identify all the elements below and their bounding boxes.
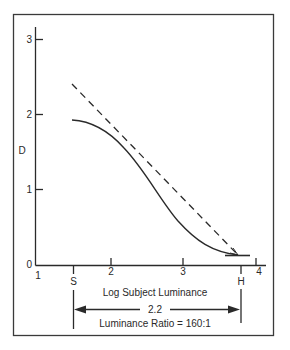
y-ticks xyxy=(36,40,44,190)
s-marker-label: S xyxy=(70,276,77,287)
left-arrowhead-icon xyxy=(74,306,86,314)
svg-text:2: 2 xyxy=(26,109,32,120)
svg-text:1: 1 xyxy=(26,184,32,195)
characteristic-curve xyxy=(72,120,238,255)
svg-text:0: 0 xyxy=(26,259,32,270)
range-label: 2.2 xyxy=(148,304,162,315)
right-arrowhead-icon xyxy=(228,306,240,314)
luminance-ratio-label: Luminance Ratio = 160:1 xyxy=(99,318,211,329)
x-axis-label: Log Subject Luminance xyxy=(103,287,208,298)
svg-text:4: 4 xyxy=(256,266,262,277)
x-ticks xyxy=(111,258,256,266)
characteristic-curve-figure: 3 2 1 0 1 2 3 4 D Log Subject Luminance … xyxy=(0,0,290,350)
svg-text:3: 3 xyxy=(180,266,186,277)
h-marker-label: H xyxy=(237,276,244,287)
dashed-reference-line xyxy=(72,84,237,254)
svg-text:2: 2 xyxy=(108,266,114,277)
y-axis-label: D xyxy=(18,145,25,156)
y-tick-labels: 3 2 1 0 xyxy=(26,34,32,270)
svg-text:3: 3 xyxy=(26,34,32,45)
svg-text:1: 1 xyxy=(35,270,41,281)
